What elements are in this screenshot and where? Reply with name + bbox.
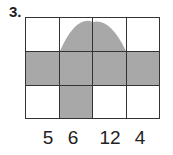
label-4: 4 <box>123 127 157 149</box>
label-3: 12 <box>93 127 127 149</box>
label-2: 6 <box>56 127 90 149</box>
